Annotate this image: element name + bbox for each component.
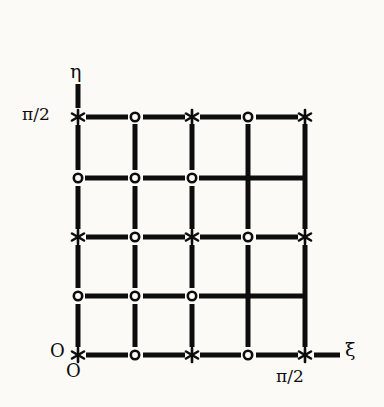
y-axis-max-tick-label: π/2: [22, 106, 50, 123]
axis-stubs: [78, 84, 340, 355]
node-star: [299, 230, 311, 244]
node-star: [186, 230, 198, 244]
x-axis-label: ξ: [345, 340, 355, 359]
node-circle: [131, 174, 139, 182]
node-star: [72, 110, 84, 124]
node-star: [299, 110, 311, 124]
node-circle: [131, 113, 139, 121]
node-star: [72, 230, 84, 244]
x-axis-max-tick-label: π/2: [276, 368, 304, 385]
grid-figure: η ξ π/2 π/2 O O: [0, 0, 384, 407]
node-star: [186, 110, 198, 124]
node-circle: [74, 174, 82, 182]
node-circle: [188, 174, 196, 182]
node-circle: [131, 233, 139, 241]
node-star: [186, 348, 198, 362]
node-circle: [244, 233, 252, 241]
origin-label-below: O: [66, 362, 81, 380]
node-circle: [131, 292, 139, 300]
node-circle: [244, 113, 252, 121]
node-circle: [244, 351, 252, 359]
y-axis-label: η: [70, 62, 81, 81]
origin-label-left: O: [50, 342, 65, 360]
node-circle: [74, 292, 82, 300]
node-star: [299, 348, 311, 362]
node-circle: [188, 292, 196, 300]
node-circle: [131, 351, 139, 359]
